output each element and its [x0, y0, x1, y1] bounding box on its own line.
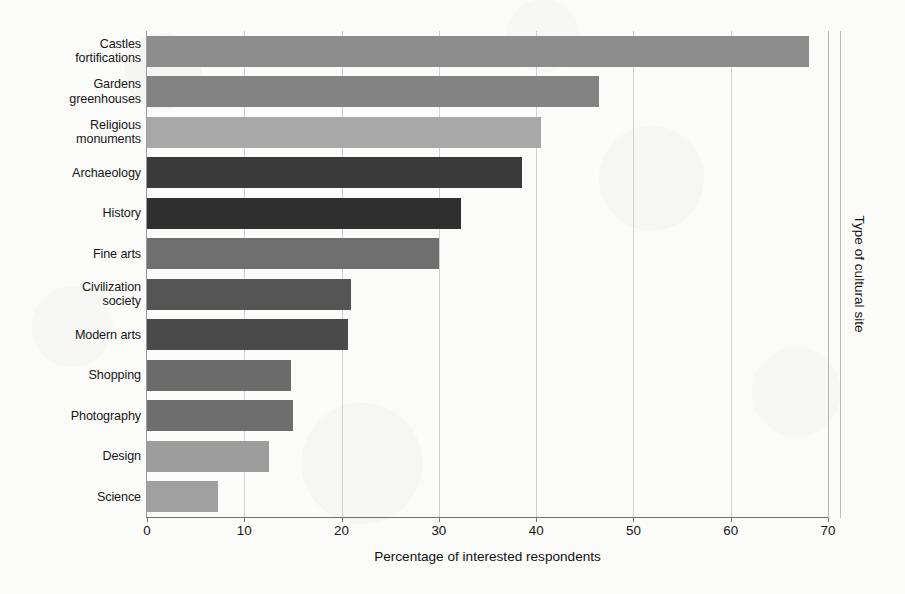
- x-axis-tick-mark: [147, 518, 148, 522]
- y-axis-category-label-line: Shopping: [7, 368, 141, 382]
- bar-row: [147, 477, 828, 518]
- y-axis-category-label: Design: [7, 449, 141, 463]
- bar: [147, 400, 293, 431]
- bar-row: [147, 315, 828, 356]
- bar: [147, 198, 461, 229]
- y-axis-category-label: History: [7, 206, 141, 220]
- y-axis-category-label-line: society: [7, 294, 141, 308]
- y-axis-category-label: Modern arts: [7, 328, 141, 342]
- x-axis-tick-label: 10: [237, 523, 252, 538]
- y-axis-category-label: Religiousmonuments: [7, 118, 141, 147]
- y-axis-category-label: Photography: [7, 409, 141, 423]
- y-axis-category-label-line: History: [7, 206, 141, 220]
- bar-row: [147, 112, 828, 153]
- x-axis-tick-mark: [244, 518, 245, 522]
- bar-row: [147, 31, 828, 72]
- x-axis-tick-label: 20: [334, 523, 349, 538]
- bar-row: [147, 355, 828, 396]
- x-axis-tick-label: 60: [723, 523, 738, 538]
- bar-row: [147, 436, 828, 477]
- bar-row: [147, 193, 828, 234]
- x-axis-tick-mark: [828, 518, 829, 522]
- y-axis-category-label-line: Religious: [7, 118, 141, 132]
- bar-row: [147, 153, 828, 194]
- y-axis-category-label: Fine arts: [7, 247, 141, 261]
- y-axis-category-label-line: Civilization: [7, 280, 141, 294]
- y-axis-category-label-line: Fine arts: [7, 247, 141, 261]
- bar-row: [147, 274, 828, 315]
- x-axis-line: [146, 517, 829, 518]
- y-axis-category-labels: CastlesfortificationsGardensgreenhousesR…: [0, 31, 141, 517]
- bar-row: [147, 72, 828, 113]
- bar: [147, 441, 269, 472]
- y-axis-category-label-line: Science: [7, 490, 141, 504]
- x-axis-tick-label: 70: [821, 523, 836, 538]
- bar: [147, 319, 348, 350]
- bar: [147, 481, 218, 512]
- bar: [147, 117, 541, 148]
- y-axis-category-label-line: Gardens: [7, 77, 141, 91]
- bar: [147, 36, 809, 67]
- bar: [147, 238, 439, 269]
- y-axis-category-label-line: Castles: [7, 37, 141, 51]
- y-axis-title: Type of cultural site: [846, 31, 872, 517]
- y-axis-title-text: Type of cultural site: [852, 215, 867, 332]
- y-axis-category-label-line: Modern arts: [7, 328, 141, 342]
- y-axis-category-label-line: Archaeology: [7, 166, 141, 180]
- x-axis-tick-mark: [536, 518, 537, 522]
- bar: [147, 76, 599, 107]
- y-axis-category-label: Castlesfortifications: [7, 37, 141, 66]
- bar-chart-figure: CastlesfortificationsGardensgreenhousesR…: [0, 0, 905, 594]
- x-axis-tick-mark: [342, 518, 343, 522]
- x-axis-tick-mark: [731, 518, 732, 522]
- y-axis-category-label: Civilizationsociety: [7, 280, 141, 309]
- y-axis-secondary-line: [840, 31, 841, 518]
- x-axis-title: Percentage of interested respondents: [147, 549, 828, 564]
- plot-area: [147, 31, 828, 517]
- bar-row: [147, 396, 828, 437]
- x-axis-tick-label: 0: [143, 523, 150, 538]
- y-axis-category-label: Shopping: [7, 368, 141, 382]
- y-axis-category-label-line: fortifications: [7, 51, 141, 65]
- y-axis-category-label-line: greenhouses: [7, 92, 141, 106]
- y-axis-category-label-line: Photography: [7, 409, 141, 423]
- y-axis-category-label: Archaeology: [7, 166, 141, 180]
- plot-right-border: [828, 31, 829, 518]
- bar: [147, 279, 351, 310]
- y-axis-line: [146, 31, 147, 518]
- y-axis-category-label: Gardensgreenhouses: [7, 77, 141, 106]
- x-axis-tick-mark: [633, 518, 634, 522]
- bar: [147, 360, 291, 391]
- x-axis-tick-label: 30: [431, 523, 446, 538]
- y-axis-category-label-line: monuments: [7, 132, 141, 146]
- y-axis-category-label-line: Design: [7, 449, 141, 463]
- bar: [147, 157, 522, 188]
- x-axis-tick-label: 50: [626, 523, 641, 538]
- x-axis-tick-mark: [439, 518, 440, 522]
- bar-row: [147, 234, 828, 275]
- y-axis-category-label: Science: [7, 490, 141, 504]
- x-axis-tick-label: 40: [529, 523, 544, 538]
